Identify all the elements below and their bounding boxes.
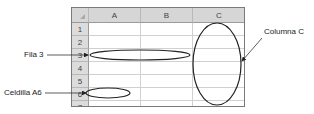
column-c-highlight-ellipse — [193, 23, 241, 105]
cell-a6-highlight-ellipse — [86, 88, 130, 98]
row-3-highlight-ellipse — [90, 50, 190, 60]
annotation-overlay — [0, 0, 314, 114]
column-c-arrow — [242, 38, 262, 61]
row-3-label: Fila 3 — [24, 50, 44, 59]
cell-a6-label: Celdilla A6 — [4, 88, 42, 97]
column-c-label: Columna C — [264, 27, 304, 36]
